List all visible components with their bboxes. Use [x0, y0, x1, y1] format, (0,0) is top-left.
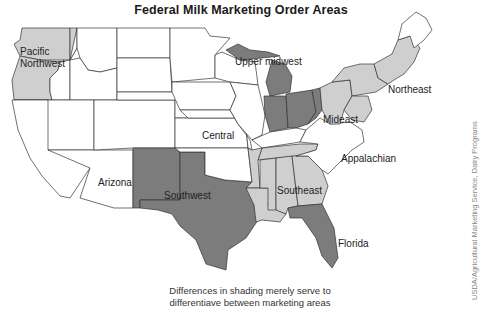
caption-line-2: differentiave between marketing areas: [150, 297, 350, 309]
label-northwest: Northwest: [20, 58, 65, 69]
source-credit: USDA/Agricultural Marketing Service, Dai…: [470, 121, 479, 300]
state-south-dakota[interactable]: [117, 58, 172, 92]
state-north-dakota[interactable]: [117, 28, 170, 58]
label-upper-midwest: Upper midwest: [235, 56, 302, 67]
caption-line-1: Differences in shading merely serve to: [150, 285, 350, 297]
label-arizona: Arizona: [98, 177, 132, 188]
map-caption: Differences in shading merely serve to d…: [150, 285, 350, 309]
label-florida: Florida: [338, 238, 369, 249]
state-colorado[interactable]: [94, 100, 175, 150]
state-ohio[interactable]: [286, 90, 316, 128]
us-map: [0, 0, 482, 313]
state-utah[interactable]: [48, 100, 94, 150]
label-appalachian: Appalachian: [341, 153, 396, 164]
label-southwest: Southwest: [164, 190, 211, 201]
state-iowa[interactable]: [172, 82, 236, 110]
label-central: Central: [202, 130, 234, 141]
state-indiana[interactable]: [264, 96, 288, 132]
state-florida[interactable]: [288, 204, 338, 268]
label-mideast: Mideast: [323, 114, 358, 125]
label-northeast: Northeast: [388, 84, 431, 95]
label-pacific: Pacific: [20, 46, 49, 57]
label-southeast: Southeast: [277, 185, 322, 196]
